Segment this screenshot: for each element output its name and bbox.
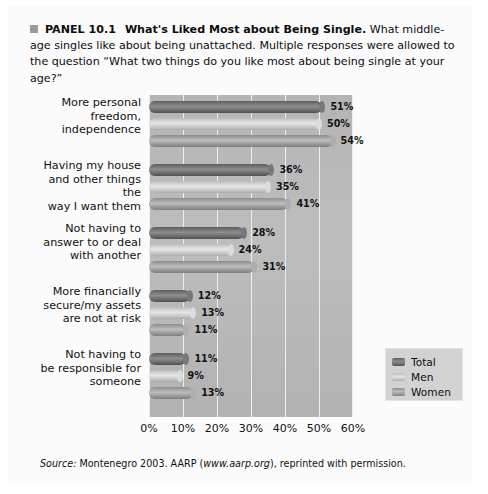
legend-swatch-total-icon — [392, 358, 405, 366]
bar-men-3 — [149, 307, 193, 319]
legend-swatch-women-icon — [392, 388, 405, 396]
category-label-line: and other things the — [29, 173, 141, 200]
bar-end-cap — [251, 261, 257, 273]
source-note: Source: Montenegro 2003. AARP (www.aarp.… — [40, 458, 406, 469]
bar-end-cap — [183, 324, 189, 336]
source-text-2: ), reprinted with permission. — [270, 458, 406, 469]
bar-total-2 — [149, 227, 244, 239]
category-label-line: Having my house — [29, 159, 141, 173]
panel-figure: PANEL 10.1What's Liked Most about Being … — [8, 6, 472, 484]
category-label-line: More personal — [29, 96, 141, 110]
bar-women-4 — [149, 387, 193, 399]
category-label-2: Not having to answer to or deal with ano… — [29, 222, 141, 263]
x-axis-tick-label: 10% — [171, 422, 195, 435]
legend-label-total: Total — [411, 356, 436, 368]
bar-value-label: 31% — [262, 261, 285, 273]
bar-total-0 — [149, 101, 322, 113]
bar-end-cap — [330, 135, 336, 147]
bar-value-label: 11% — [194, 324, 217, 336]
bar-end-cap — [177, 370, 183, 382]
panel-title: What's Liked Most about Being Single. — [125, 23, 366, 36]
plot-area: 51%50%54%36%35%41%28%24%31%12%13%11%11%9… — [149, 95, 353, 417]
bar-end-cap — [285, 198, 291, 210]
category-label-3: More financially secure/my assets are no… — [29, 285, 141, 326]
bar-total-3 — [149, 290, 190, 302]
bar-end-cap — [190, 387, 196, 399]
bar-value-label: 28% — [252, 227, 275, 239]
bar-women-3 — [149, 324, 186, 336]
category-label-line: secure/my assets — [29, 299, 141, 313]
category-label-line: More financially — [29, 285, 141, 299]
category-label-line: with another — [29, 249, 141, 263]
category-label-0: More personal freedom, independence — [29, 96, 141, 137]
category-label-line: independence — [29, 123, 141, 137]
bar-total-1 — [149, 164, 271, 176]
bar-value-label: 35% — [276, 181, 299, 193]
bar-men-4 — [149, 370, 180, 382]
bar-end-cap — [319, 101, 325, 113]
bar-end-cap — [228, 244, 234, 256]
legend-label-women: Women — [411, 386, 451, 398]
bar-men-2 — [149, 244, 231, 256]
category-label-line: someone — [29, 375, 141, 389]
source-prefix: Source: — [40, 458, 76, 469]
bar-value-label: 13% — [201, 307, 224, 319]
legend-label-men: Men — [411, 371, 433, 383]
bar-end-cap — [268, 164, 274, 176]
panel-caption: PANEL 10.1What's Liked Most about Being … — [30, 22, 460, 87]
x-axis-tick-label: 0% — [140, 422, 157, 435]
x-axis-tick-label: 30% — [239, 422, 263, 435]
category-label-line: be responsible for — [29, 362, 141, 376]
legend-item-total: Total — [392, 354, 462, 369]
bar-value-label: 50% — [327, 118, 350, 130]
bar-value-label: 13% — [201, 387, 224, 399]
bar-women-1 — [149, 198, 288, 210]
bar-value-label: 36% — [279, 164, 302, 176]
source-text-1: Montenegro 2003. AARP ( — [76, 458, 203, 469]
bar-value-label: 11% — [194, 353, 217, 365]
bar-value-label: 9% — [188, 370, 204, 382]
x-axis: 0%10%20%30%40%50%60% — [149, 422, 353, 438]
x-axis-tick-label: 20% — [205, 422, 229, 435]
bar-value-label: 51% — [330, 101, 353, 113]
x-axis-tick-label: 60% — [341, 422, 365, 435]
bar-end-cap — [265, 181, 271, 193]
square-bullet-icon — [30, 25, 38, 33]
bar-end-cap — [187, 290, 193, 302]
panel-number: PANEL 10.1 — [45, 23, 116, 36]
bar-end-cap — [316, 118, 322, 130]
category-label-line: are not at risk — [29, 312, 141, 326]
legend-item-men: Men — [392, 369, 462, 384]
bar-end-cap — [241, 227, 247, 239]
source-url: www.aarp.org — [203, 458, 270, 469]
bar-end-cap — [190, 307, 196, 319]
bar-value-label: 24% — [239, 244, 262, 256]
bar-women-2 — [149, 261, 254, 273]
category-label-line: freedom, — [29, 110, 141, 124]
legend-item-women: Women — [392, 384, 462, 399]
category-label-4: Not having to be responsible for someone — [29, 348, 141, 389]
x-axis-tick-label: 40% — [273, 422, 297, 435]
category-label-1: Having my house and other things the way… — [29, 159, 141, 213]
bar-end-cap — [183, 353, 189, 365]
legend-swatch-men-icon — [392, 373, 405, 381]
bar-value-label: 41% — [296, 198, 319, 210]
category-label-line: way I want them — [29, 200, 141, 214]
category-label-line: Not having to — [29, 222, 141, 236]
bar-total-4 — [149, 353, 186, 365]
bar-men-1 — [149, 181, 268, 193]
x-axis-tick-label: 50% — [307, 422, 331, 435]
bar-chart: More personal freedom, independence Havi… — [30, 90, 454, 435]
category-label-line: Not having to — [29, 348, 141, 362]
bar-value-label: 12% — [198, 290, 221, 302]
bar-men-0 — [149, 118, 319, 130]
bar-value-label: 54% — [341, 135, 364, 147]
chart-legend: Total Men Women — [385, 348, 463, 401]
bar-women-0 — [149, 135, 333, 147]
category-label-line: answer to or deal — [29, 236, 141, 250]
